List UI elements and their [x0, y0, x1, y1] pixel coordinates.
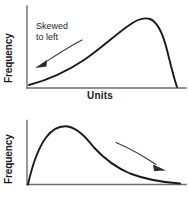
- y-axis-label-top: Frequency: [3, 33, 14, 83]
- annotation-arrow-shaft-bottom: [116, 143, 156, 165]
- chart-top-graphic: [0, 0, 188, 104]
- annotation-arrow-head-top: [35, 60, 47, 68]
- chart-panel-skewed-right: Skewed to right Frequency Units: [0, 104, 188, 207]
- annotation-line-1: Skewed: [36, 21, 68, 31]
- chart-bottom-graphic: [0, 104, 188, 207]
- annotation-arrow-head-bottom: [153, 165, 166, 172]
- chart-panel-skewed-left: Skewed to left Frequency Units: [0, 0, 188, 104]
- distribution-curve-right-skew: [28, 126, 180, 184]
- y-axis-label-bottom: Frequency: [3, 134, 14, 184]
- skewness-figure: Skewed to left Frequency Units Skewed to…: [0, 0, 188, 207]
- annotation-arrow-shaft-top: [44, 40, 82, 63]
- annotation-label-skewed-left: Skewed to left: [36, 21, 68, 42]
- annotation-line-2: to left: [36, 32, 68, 43]
- x-axis-label-top: Units: [6, 90, 188, 101]
